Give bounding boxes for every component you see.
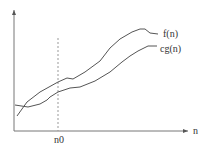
n0-label: n0 xyxy=(54,134,64,145)
x-axis-label: n xyxy=(193,125,198,136)
cg-curve xyxy=(15,46,157,107)
f-label: f(n) xyxy=(163,28,178,40)
f-curve xyxy=(17,29,158,116)
cg-label: cg(n) xyxy=(160,43,181,55)
chart: f(n) cg(n) n n0 xyxy=(0,0,205,151)
